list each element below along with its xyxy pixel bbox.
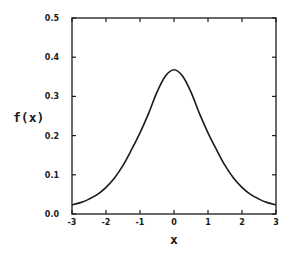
y-tick-label: 0.4: [45, 53, 60, 62]
y-tick-label: 0.1: [45, 171, 60, 180]
chart: 0.00.10.20.30.40.5 -3-2-10123 f(x) x: [0, 0, 289, 256]
y-tick-label: 0.3: [45, 92, 59, 101]
y-tick-label: 0.0: [45, 210, 60, 219]
x-tick-label: 2: [239, 218, 245, 227]
x-tick-labels: -3-2-10123: [68, 218, 279, 227]
x-tick-label: 0: [171, 218, 177, 227]
y-tick-label: 0.2: [45, 132, 59, 141]
density-curve: [72, 70, 276, 205]
plot-frame: [72, 18, 276, 214]
y-tick-labels: 0.00.10.20.30.40.5: [45, 14, 60, 219]
axis-ticks: [72, 18, 276, 214]
x-tick-label: -2: [102, 218, 111, 227]
y-tick-label: 0.5: [45, 14, 60, 23]
x-tick-label: -3: [68, 218, 77, 227]
x-tick-label: -1: [136, 218, 145, 227]
x-tick-label: 1: [205, 218, 211, 227]
x-axis-label: x: [170, 232, 178, 247]
x-tick-label: 3: [273, 218, 279, 227]
y-axis-label: f(x): [13, 110, 44, 125]
